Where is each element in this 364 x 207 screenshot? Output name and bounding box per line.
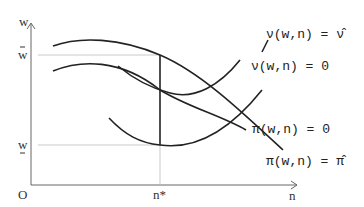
w-bar-text: w — [18, 47, 28, 62]
label-nu-hat: ν(w,n) = ν̂ — [266, 27, 347, 42]
curve-nu-hat — [109, 90, 262, 146]
label-nu-zero: ν(w,n) = 0 — [251, 59, 329, 74]
guides — [38, 55, 160, 185]
axes — [27, 23, 297, 189]
y-axis-label: w — [19, 14, 29, 29]
w-bar-label: w — [18, 47, 28, 62]
w-under-label: w — [18, 137, 28, 153]
origin-label: O — [18, 187, 27, 202]
curves — [53, 40, 283, 150]
label-pi-zero: π(w,n) = 0 — [252, 122, 330, 137]
curve-pi-zero — [53, 64, 246, 130]
n-star-label: n* — [153, 187, 166, 202]
x-axis-label: n — [289, 188, 296, 203]
w-under-text: w — [18, 137, 28, 152]
diagram: w n O n* w w ν(w,n) = ν̂ ν(w,n) = 0 π(w,… — [0, 0, 364, 207]
label-pi-hat: π(w,n) = π̂ — [266, 154, 347, 169]
